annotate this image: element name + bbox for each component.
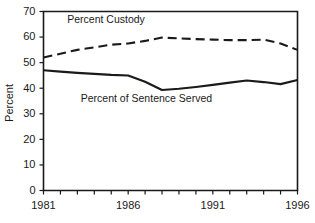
y-tick-label: 10 [23,158,35,170]
series-line-percent-custody [44,38,298,58]
series-annotation-percent-of-sentence-served: Percent of Sentence Served [81,92,212,104]
y-tick-label: 50 [23,56,35,68]
x-tick-label: 1991 [201,199,225,211]
x-tick-label: 1996 [285,199,309,211]
y-axis-title: Percent [3,84,15,122]
y-axis-tick-labels: 706050403020100 [23,5,35,196]
y-tick-label: 30 [23,107,35,119]
y-tick-label: 60 [23,30,35,42]
y-tick-label: 0 [29,184,35,196]
x-axis-tick-labels: 1981198619911996 [31,199,309,211]
x-tick-label: 1986 [116,199,140,211]
chart-figure: Percent 706050403020100 1981198619911996… [0,0,315,223]
x-tick-label: 1981 [31,199,55,211]
percent-custody-sentence-served-line-chart: Percent 706050403020100 1981198619911996… [0,0,315,223]
y-tick-label: 40 [23,82,35,94]
y-tick-label: 20 [23,133,35,145]
series-line-percent-of-sentence-served [44,70,298,90]
y-tick-label: 70 [23,5,35,17]
series-annotation-percent-custody: Percent Custody [67,13,145,25]
